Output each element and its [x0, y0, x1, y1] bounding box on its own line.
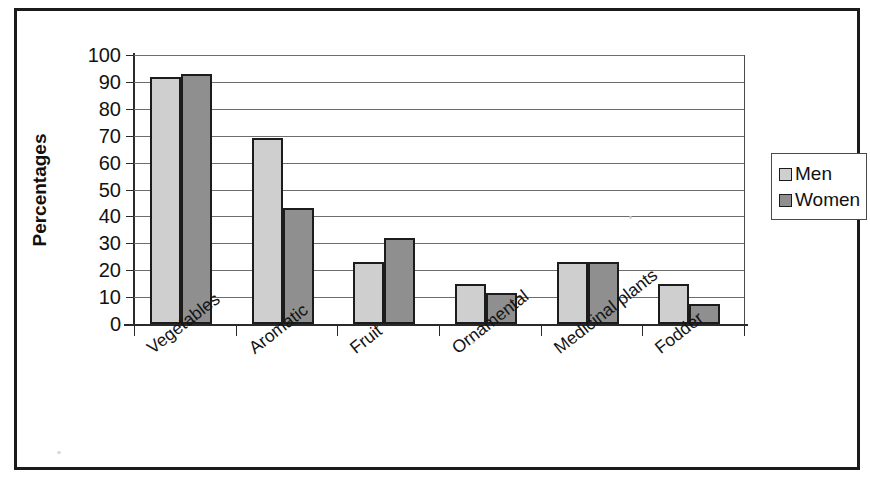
y-tick-label: 30 [99, 232, 121, 255]
x-tick-mark [744, 324, 745, 336]
gridline [134, 55, 744, 56]
gridline [134, 297, 744, 298]
y-tick-mark [126, 82, 134, 83]
gridline [134, 136, 744, 137]
y-tick-mark [126, 136, 134, 137]
bar-women-vegetables [181, 74, 212, 324]
legend-label: Women [795, 189, 860, 211]
figure-frame: Percentages 1009080706050403020100 Veget… [14, 8, 860, 470]
x-tick-mark [541, 324, 542, 336]
y-tick-mark [126, 324, 134, 325]
y-tick-label: 60 [99, 151, 121, 174]
scan-speckle [472, 341, 475, 344]
gridline [134, 82, 744, 83]
y-tick-mark [126, 190, 134, 191]
bar-men-vegetables [150, 77, 181, 324]
bar-men-aromatic [252, 138, 283, 324]
bar-women-fruit [384, 238, 415, 324]
scan-speckle [629, 216, 632, 219]
legend: MenWomen [771, 153, 867, 220]
x-axis-label-fruit: Fruit [346, 320, 387, 358]
y-tick-label: 20 [99, 259, 121, 282]
gridline [134, 163, 744, 164]
x-tick-mark [439, 324, 440, 336]
y-tick-label: 50 [99, 178, 121, 201]
y-tick-mark [126, 109, 134, 110]
gridline [134, 190, 744, 191]
bar-men-fruit [353, 262, 384, 324]
legend-swatch-icon [779, 168, 792, 181]
y-tick-mark [126, 270, 134, 271]
y-tick-label: 90 [99, 70, 121, 93]
y-tick-label: 70 [99, 124, 121, 147]
y-axis-title: Percentages [29, 110, 51, 270]
gridline [134, 216, 744, 217]
x-tick-mark [337, 324, 338, 336]
gridline [134, 243, 744, 244]
x-tick-mark [134, 324, 135, 336]
plot-right-border [744, 55, 745, 324]
y-tick-label: 100 [88, 44, 121, 67]
x-axis-line [124, 324, 748, 326]
legend-item-men: Men [779, 161, 866, 187]
gridline [134, 109, 744, 110]
legend-item-women: Women [779, 187, 866, 213]
x-tick-mark [236, 324, 237, 336]
scan-speckle [57, 451, 61, 454]
y-tick-mark [126, 243, 134, 244]
x-tick-mark [642, 324, 643, 336]
y-tick-mark [126, 297, 134, 298]
legend-label: Men [795, 163, 832, 185]
legend-swatch-icon [779, 194, 792, 207]
y-tick-label: 0 [110, 313, 121, 336]
y-tick-mark [126, 163, 134, 164]
y-tick-label: 40 [99, 205, 121, 228]
figure: Percentages 1009080706050403020100 Veget… [0, 0, 870, 481]
y-tick-mark [126, 216, 134, 217]
y-tick-label: 80 [99, 97, 121, 120]
y-tick-mark [126, 55, 134, 56]
y-tick-label: 10 [99, 286, 121, 309]
